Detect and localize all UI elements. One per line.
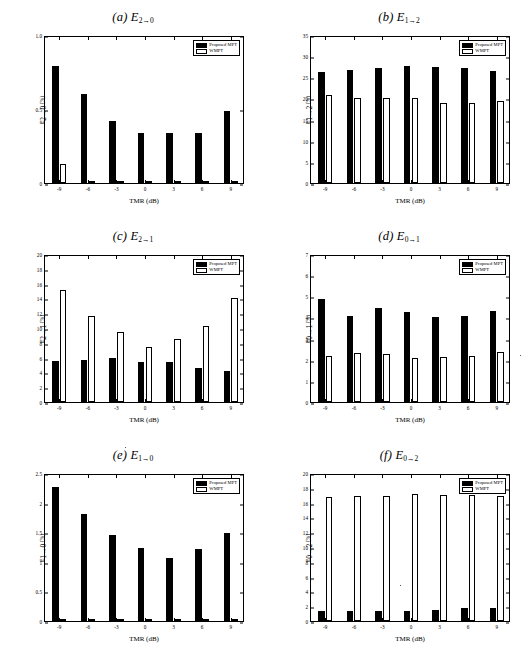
x-tick-label: 3 — [172, 402, 175, 411]
y-tick-mark-right — [506, 58, 509, 59]
x-tick-label: 3 — [438, 621, 441, 630]
legend-d: Proposed MPTWMPT — [459, 259, 506, 275]
y-axis-label-f: E0→2 (%) — [306, 518, 314, 578]
x-tick-label: -3 — [114, 621, 118, 630]
y-tick-mark-right — [506, 608, 509, 609]
bar-wmpt — [60, 290, 67, 402]
bar-wmpt — [146, 181, 153, 183]
x-tick-mark-top — [354, 475, 355, 478]
panel-symbol-e: E1→0 — [130, 448, 153, 462]
y-tick-mark — [311, 277, 314, 278]
x-tick-label: -6 — [352, 402, 356, 411]
x-tick-label: -3 — [380, 621, 384, 630]
bar-wmpt — [326, 95, 333, 183]
x-tick-label: -9 — [323, 183, 327, 192]
legend-b: Proposed MPTWMPT — [459, 40, 506, 56]
swatch-wmpt — [462, 49, 473, 54]
bar-proposed-mpt — [81, 94, 88, 183]
x-axis-label-d: TMR (dB) — [310, 417, 510, 424]
x-tick-mark-top — [59, 475, 60, 478]
bar-proposed-mpt — [432, 317, 439, 402]
swatch-proposed-mpt — [462, 481, 473, 486]
bar-proposed-mpt — [490, 71, 497, 183]
y-tick-mark-right — [240, 563, 243, 564]
plot-area-a: 00.51.0-9-6-30369Proposed MPTWMPT — [44, 36, 244, 184]
x-tick-mark-top — [382, 37, 383, 40]
y-tick-label: 0 — [305, 401, 311, 406]
chart-panel-a: (a) E2→000.51.0-9-6-30369Proposed MPTWMP… — [0, 0, 266, 219]
bar-wmpt — [497, 352, 504, 402]
y-tick-mark — [45, 475, 48, 476]
y-tick-mark-right — [240, 475, 243, 476]
x-tick-mark-top — [88, 475, 89, 478]
x-tick-mark-top — [354, 256, 355, 259]
y-tick-mark-right — [506, 121, 509, 122]
x-axis-label-a: TMR (dB) — [44, 198, 244, 205]
plot-inner-e: 00.511.522.5-9-6-30369Proposed MPTWMPT — [45, 475, 243, 621]
y-tick-mark-right — [506, 475, 509, 476]
bar-proposed-mpt — [461, 68, 468, 183]
chart-panel-e: (e) E1→000.511.522.5-9-6-30369Proposed M… — [0, 438, 266, 657]
legend-item-wmpt: WMPT — [196, 268, 237, 273]
bar-wmpt — [326, 356, 333, 402]
y-tick-mark — [311, 58, 314, 59]
y-tick-label: 10 — [303, 140, 311, 145]
legend-item-proposed-mpt: Proposed MPT — [196, 262, 237, 267]
bar-proposed-mpt — [404, 66, 411, 183]
y-tick-mark-right — [506, 563, 509, 564]
panel-symbol-d: E0→1 — [397, 229, 420, 243]
y-tick-mark — [45, 504, 48, 505]
bar-wmpt — [412, 98, 419, 183]
swatch-wmpt — [196, 49, 207, 54]
bar-wmpt — [354, 353, 361, 402]
x-tick-label: 3 — [172, 183, 175, 192]
x-tick-label: -6 — [352, 183, 356, 192]
bar-proposed-mpt — [432, 610, 439, 621]
y-tick-mark-right — [240, 344, 243, 345]
x-tick-mark-top — [116, 256, 117, 259]
bar-proposed-mpt — [195, 549, 202, 621]
scan-speck — [400, 585, 401, 586]
x-tick-label: -3 — [380, 402, 384, 411]
bar-proposed-mpt — [224, 371, 231, 402]
bar-proposed-mpt — [138, 362, 145, 402]
legend-a: Proposed MPTWMPT — [193, 40, 240, 56]
x-tick-label: 6 — [467, 402, 470, 411]
legend-label: WMPT — [209, 268, 223, 273]
bar-proposed-mpt — [224, 533, 231, 621]
x-tick-mark-top — [145, 37, 146, 40]
bar-wmpt — [326, 497, 333, 621]
x-tick-mark-top — [116, 37, 117, 40]
y-tick-mark-right — [240, 389, 243, 390]
bar-wmpt — [440, 103, 447, 183]
x-tick-mark-top — [174, 256, 175, 259]
bar-proposed-mpt — [375, 308, 382, 402]
x-tick-mark-top — [382, 256, 383, 259]
x-tick-mark-top — [440, 37, 441, 40]
bar-proposed-mpt — [404, 611, 411, 621]
legend-item-wmpt: WMPT — [196, 487, 237, 492]
x-tick-label: -9 — [57, 183, 61, 192]
bar-wmpt — [203, 181, 210, 183]
x-tick-label: -6 — [86, 183, 90, 192]
x-tick-label: 9 — [229, 621, 232, 630]
y-tick-mark — [311, 142, 314, 143]
y-tick-label: 1 — [305, 380, 311, 385]
y-tick-label: 5 — [305, 161, 311, 166]
panel-tag-d: (d) — [378, 229, 397, 243]
legend-item-proposed-mpt: Proposed MPT — [196, 481, 237, 486]
swatch-wmpt — [196, 268, 207, 273]
panel-title-c: (c) E2→1 — [0, 229, 266, 244]
bar-wmpt — [497, 496, 504, 621]
plot-area-e: 00.511.522.5-9-6-30369Proposed MPTWMPT — [44, 474, 244, 622]
y-tick-label: 0 — [305, 182, 311, 187]
legend-label: Proposed MPT — [209, 262, 237, 267]
y-axis-label-a: E2→0 (%) — [40, 80, 48, 140]
bar-proposed-mpt — [109, 121, 116, 183]
y-tick-mark-right — [240, 37, 243, 38]
x-tick-mark-top — [354, 37, 355, 40]
plot-area-c: 02468101214161820-9-6-30369Proposed MPTW… — [44, 255, 244, 403]
x-tick-label: 3 — [438, 402, 441, 411]
bar-wmpt — [88, 316, 95, 402]
x-tick-label: 6 — [467, 621, 470, 630]
